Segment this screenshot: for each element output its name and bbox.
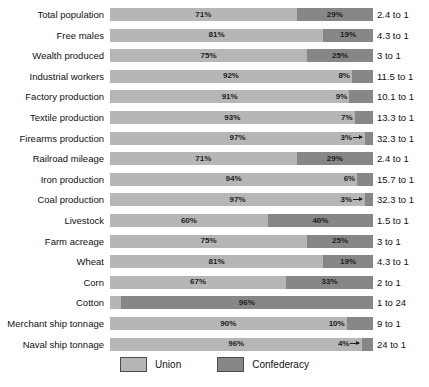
ratio-label: 2.4 to 1 [377,150,409,167]
union-value-label: 90% [220,320,236,328]
stacked-bar: 4%96% [110,296,373,309]
stacked-bar: 97%3% [110,132,373,145]
bar-segment-confederacy: 29% [297,8,373,21]
ratio-label: 3 to 1 [377,233,401,250]
confederacy-value-label: 96% [239,299,255,307]
bar-segment-union: 90% [110,317,347,330]
bar-segment-confederacy: 33% [286,276,373,289]
confederacy-value-label: 25% [332,52,348,60]
union-value-label: 60% [181,217,197,225]
category-label: Farm acreage [0,233,104,250]
stacked-bar: 60%40% [110,214,373,227]
bar-segment-union: 75% [110,49,307,62]
chart-row: Factory production91%9%10.1 to 1 [0,88,429,109]
chart-row: Industrial workers92%8%11.5 to 1 [0,68,429,89]
category-label: Total population [0,6,104,23]
union-value-label: 81% [209,258,225,266]
bar-segment-confederacy: 4% [362,338,373,351]
stacked-bar: 67%33% [110,276,373,289]
stacked-bar: 97%3% [110,193,373,206]
ratio-label: 32.3 to 1 [377,130,414,147]
bar-segment-union: 75% [110,235,307,248]
union-value-label: 93% [224,114,240,122]
confederacy-value-label: 9% [336,93,350,101]
stacked-bar: 75%25% [110,49,373,62]
chart-row: Firearms production97%3%32.3 to 1 [0,130,429,151]
ratio-label: 1.5 to 1 [377,212,409,229]
chart-row: Railroad mileage71%29%2.4 to 1 [0,150,429,171]
bar-segment-union: 96% [110,338,362,351]
bar-segment-union: 67% [110,276,286,289]
chart-row: Wealth produced75%25%3 to 1 [0,47,429,68]
confederacy-value-label: 4% [338,340,363,348]
bar-segment-union: 97% [110,132,365,145]
legend-swatch-icon [120,357,147,372]
union-value-label: 75% [201,52,217,60]
confederacy-value-label: 7% [341,114,355,122]
confederacy-value-text: 3% [341,195,353,204]
category-label: Cotton [0,294,104,311]
union-value-label: 91% [222,93,238,101]
legend-item: Union [120,357,181,372]
bar-segment-confederacy: 6% [357,173,373,186]
chart-row: Farm acreage75%25%3 to 1 [0,233,429,254]
category-label: Naval ship tonnage [0,336,104,353]
category-label: Iron production [0,171,104,188]
confederacy-value-text: 4% [338,339,350,348]
bar-segment-union: 60% [110,214,268,227]
ratio-label: 24 to 1 [377,336,406,353]
arrow-right-icon [353,137,362,138]
bar-segment-confederacy: 19% [323,29,373,42]
stacked-bar: 91%9% [110,90,373,103]
chart-row: Corn67%33%2 to 1 [0,274,429,295]
ratio-label: 13.3 to 1 [377,109,414,126]
bar-segment-union: 91% [110,90,349,103]
bar-segment-confederacy: 8% [352,70,373,83]
category-label: Wheat [0,253,104,270]
union-value-label: 67% [190,278,206,286]
stacked-bar: 81%19% [110,255,373,268]
bar-segment-confederacy: 10% [347,317,373,330]
ratio-label: 2 to 1 [377,274,401,291]
legend-label: Union [155,359,181,370]
union-value-label: 97% [230,134,246,142]
legend-item: Confederacy [217,357,309,372]
legend-label: Confederacy [252,359,309,370]
confederacy-value-text: 3% [341,133,353,142]
category-label: Wealth produced [0,47,104,64]
bar-segment-confederacy: 7% [355,111,373,124]
stacked-bar: 81%19% [110,29,373,42]
confederacy-value-label: 33% [322,278,338,286]
union-value-label: 71% [195,155,211,163]
stacked-bar: 92%8% [110,70,373,83]
arrow-right-icon [350,343,359,344]
union-value-label: 92% [223,72,239,80]
ratio-label: 9 to 1 [377,315,401,332]
bar-segment-confederacy: 25% [307,49,373,62]
confederacy-value-label: 40% [312,217,328,225]
bar-segment-union: 81% [110,29,323,42]
ratio-label: 4.3 to 1 [377,253,409,270]
bar-segment-union: 4% [110,296,121,309]
category-label: Railroad mileage [0,150,104,167]
union-value-label: 94% [226,175,242,183]
confederacy-value-label: 6% [344,175,358,183]
category-label: Livestock [0,212,104,229]
bar-segment-union: 92% [110,70,352,83]
chart-row: Livestock60%40%1.5 to 1 [0,212,429,233]
stacked-bar: 90%10% [110,317,373,330]
union-value-label: 71% [195,11,211,19]
category-label: Factory production [0,88,104,105]
chart-row: Wheat81%19%4.3 to 1 [0,253,429,274]
ratio-label: 11.5 to 1 [377,68,413,85]
union-value-label: 96% [228,340,244,348]
category-label: Free males [0,27,104,44]
chart-row: Merchant ship tonnage90%10%9 to 1 [0,315,429,336]
bar-segment-union: 97% [110,193,365,206]
ratio-label: 10.1 to 1 [377,88,414,105]
stacked-bar: 93%7% [110,111,373,124]
legend-swatch-icon [217,357,244,372]
union-value-label: 97% [230,196,246,204]
confederacy-value-label: 29% [327,11,343,19]
bar-segment-confederacy: 3% [365,193,373,206]
